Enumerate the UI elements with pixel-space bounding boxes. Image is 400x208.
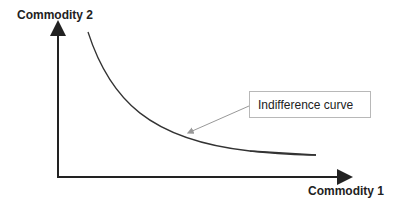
callout-label: Indifference curve <box>258 98 353 112</box>
callout-arrow <box>190 106 249 132</box>
indifference-curve-callout: Indifference curve <box>249 91 371 118</box>
x-axis-label: Commodity 1 <box>308 184 384 198</box>
y-axis-label: Commodity 2 <box>17 8 93 22</box>
